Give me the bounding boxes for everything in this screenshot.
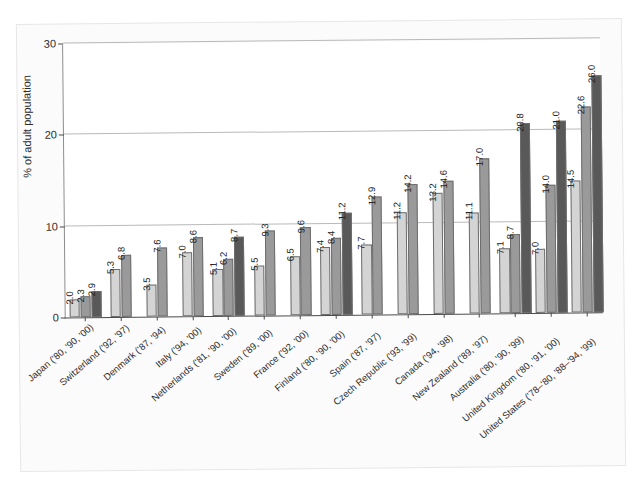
y-tick-mark bbox=[58, 43, 63, 44]
bar-group: 7.712.9 bbox=[351, 41, 389, 314]
bar-value-label: 20.8 bbox=[515, 113, 525, 132]
bar-value-label: 7.1 bbox=[495, 241, 505, 254]
bar[interactable]: 7.0 bbox=[535, 249, 546, 313]
bar-value-label: 5.3 bbox=[106, 261, 116, 274]
bar[interactable]: 9.3 bbox=[264, 230, 275, 315]
bar-value-label: 2.9 bbox=[87, 283, 97, 296]
bar[interactable]: 6.5 bbox=[290, 256, 301, 315]
bar-group: 14.522.626.0 bbox=[566, 39, 604, 312]
bar[interactable]: 21.0 bbox=[556, 121, 568, 313]
x-axis-label: Japan ('80, '90, '00) bbox=[26, 322, 95, 383]
bar[interactable]: 12.9 bbox=[372, 197, 383, 315]
bar-value-label: 5.5 bbox=[249, 258, 259, 271]
y-tick-mark bbox=[60, 226, 65, 227]
bar[interactable]: 7.6 bbox=[157, 247, 168, 317]
x-axis-label: Switzerland ('92, '97) bbox=[58, 323, 131, 388]
bar[interactable]: 11.1 bbox=[469, 212, 480, 313]
bar[interactable]: 13.2 bbox=[433, 193, 444, 314]
bar-value-label: 14.0 bbox=[541, 175, 551, 194]
bar[interactable]: 5.5 bbox=[254, 265, 265, 315]
y-tick-mark bbox=[61, 317, 66, 318]
bar[interactable]: 17.0 bbox=[479, 158, 491, 313]
bar-value-label: 26.0 bbox=[587, 65, 597, 84]
y-tick-label: 20 bbox=[45, 129, 57, 141]
bar[interactable]: 5.1 bbox=[213, 269, 224, 316]
bar-value-label: 17.0 bbox=[474, 148, 484, 167]
bar-group: 5.36.8 bbox=[100, 44, 138, 317]
bar-value-label: 21.0 bbox=[551, 111, 561, 130]
bar-value-label: 11.1 bbox=[464, 202, 474, 220]
bar-value-label: 11.2 bbox=[337, 203, 347, 221]
bar[interactable]: 7.4 bbox=[320, 247, 331, 315]
y-tick-label: 10 bbox=[46, 220, 58, 232]
bar-value-label: 8.4 bbox=[326, 231, 336, 244]
bar[interactable]: 14.5 bbox=[571, 180, 582, 313]
bar-value-label: 9.6 bbox=[296, 220, 306, 233]
y-tick-label: 0 bbox=[53, 312, 59, 324]
x-axis-labels: Japan ('80, '90, '00)Switzerland ('92, '… bbox=[65, 315, 626, 470]
bar-value-label: 6.8 bbox=[117, 247, 127, 260]
bar[interactable]: 8.7 bbox=[234, 236, 245, 316]
y-axis-title: % of adult population bbox=[20, 75, 33, 178]
bar[interactable]: 14.0 bbox=[546, 185, 557, 313]
bar-value-label: 3.5 bbox=[142, 277, 152, 290]
bar-group: 11.117.0 bbox=[459, 40, 497, 313]
bar-value-label: 7.6 bbox=[153, 240, 163, 253]
bar-value-label: 11.2 bbox=[392, 202, 402, 220]
scanned-page: % of adult population 0102030 2.02.32.95… bbox=[0, 0, 639, 484]
bar[interactable]: 6.8 bbox=[121, 255, 132, 317]
bar[interactable]: 8.7 bbox=[510, 234, 521, 314]
bar[interactable]: 14.2 bbox=[407, 184, 418, 314]
bar-value-label: 9.3 bbox=[260, 223, 270, 236]
bar[interactable]: 6.2 bbox=[223, 259, 234, 316]
bar-value-label: 14.2 bbox=[403, 174, 413, 193]
bar-group: 5.59.3 bbox=[243, 42, 281, 315]
bar-value-label: 8.7 bbox=[506, 226, 516, 239]
bar-value-label: 8.6 bbox=[188, 230, 198, 243]
bar[interactable]: 11.2 bbox=[341, 212, 352, 314]
bar-group: 2.02.32.9 bbox=[64, 44, 102, 317]
bar[interactable]: 5.3 bbox=[111, 269, 122, 318]
bar-value-label: 2.3 bbox=[76, 289, 86, 302]
y-tick-mark bbox=[59, 135, 64, 136]
bar-group: 7.48.411.2 bbox=[315, 42, 353, 315]
bar[interactable]: 14.6 bbox=[443, 180, 454, 313]
bar-group: 11.214.2 bbox=[387, 41, 425, 314]
bar[interactable]: 2.3 bbox=[80, 296, 90, 317]
bar-value-label: 8.7 bbox=[230, 229, 240, 242]
bar-value-label: 14.5 bbox=[566, 170, 576, 189]
bar[interactable]: 26.0 bbox=[591, 75, 603, 313]
chart-figure: % of adult population 0102030 2.02.32.95… bbox=[0, 0, 639, 484]
bar-group: 3.57.6 bbox=[136, 43, 174, 316]
bar-group: 13.214.6 bbox=[423, 41, 461, 314]
bar-group: 7.18.720.8 bbox=[494, 40, 532, 313]
bar-value-label: 14.6 bbox=[439, 170, 449, 189]
bar[interactable]: 7.7 bbox=[361, 244, 372, 314]
bar-value-label: 6.2 bbox=[219, 252, 229, 265]
bar[interactable]: 11.2 bbox=[397, 212, 408, 314]
bar-value-label: 7.4 bbox=[316, 240, 326, 253]
bar[interactable]: 20.8 bbox=[520, 123, 532, 313]
bar[interactable]: 9.6 bbox=[300, 227, 311, 315]
bar[interactable]: 8.4 bbox=[331, 238, 342, 315]
bar-value-label: 2.0 bbox=[65, 291, 75, 304]
bar[interactable]: 8.6 bbox=[193, 238, 204, 317]
x-axis-label: Finland ('80, '90, '00) bbox=[273, 329, 346, 393]
bar-group: 6.59.6 bbox=[279, 42, 317, 315]
bar[interactable]: 7.1 bbox=[499, 248, 510, 313]
bar[interactable]: 3.5 bbox=[147, 285, 157, 317]
plot-area: 0102030 2.02.32.95.36.83.57.67.08.65.16.… bbox=[62, 39, 603, 318]
bar-group: 7.08.6 bbox=[172, 43, 210, 316]
bar-value-label: 5.1 bbox=[208, 262, 218, 275]
y-tick-label: 30 bbox=[44, 38, 56, 50]
bar-groups: 2.02.32.95.36.83.57.67.08.65.16.28.75.59… bbox=[64, 39, 603, 317]
bar-value-label: 7.0 bbox=[178, 245, 188, 258]
bar-group: 5.16.28.7 bbox=[208, 43, 246, 316]
bar-value-label: 7.0 bbox=[531, 241, 541, 254]
bar-value-label: 13.2 bbox=[428, 183, 438, 202]
bar[interactable]: 7.0 bbox=[182, 252, 193, 316]
bar[interactable]: 2.9 bbox=[91, 291, 101, 318]
bar-group: 7.014.021.0 bbox=[530, 40, 568, 313]
bar-value-label: 22.6 bbox=[576, 96, 586, 115]
bar-value-label: 6.5 bbox=[285, 248, 295, 261]
